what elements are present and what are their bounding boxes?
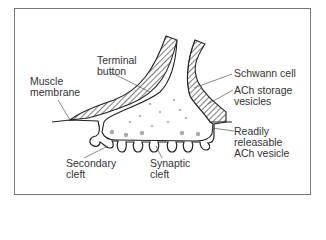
label-ach-storage-vesicles: ACh storage vesicles (234, 85, 292, 107)
label-muscle-membrane: Muscle membrane (30, 76, 80, 98)
label-synaptic-cleft: Synaptic cleft (150, 158, 190, 180)
label-terminal-button: Terminal button (97, 55, 137, 77)
label-secondary-cleft: Secondary cleft (66, 158, 116, 180)
label-readily-releasable-vesicle: Readily releasable ACh vesicle (234, 126, 289, 159)
label-schwann-cell: Schwann cell (234, 68, 296, 79)
